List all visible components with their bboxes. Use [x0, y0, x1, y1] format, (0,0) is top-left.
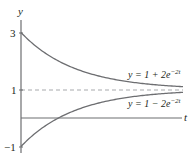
- upper-curve-label: y = 1 + 2e−2t: [127, 68, 182, 80]
- t-axis-label: t: [184, 111, 188, 123]
- tick-label-1: 1: [11, 84, 17, 96]
- tick-label-3: 3: [10, 27, 16, 39]
- chart: y t 3 1 −1 y = 1 + 2e−2t y = 1 − 2e−2t: [0, 0, 192, 161]
- y-axis-label: y: [17, 5, 23, 17]
- tick-label-neg1: −1: [4, 141, 16, 153]
- lower-curve-label: y = 1 − 2e−2t: [127, 97, 182, 109]
